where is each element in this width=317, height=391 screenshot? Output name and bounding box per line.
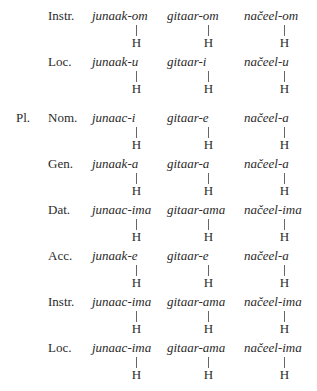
word-form: načeel-a [244,156,317,172]
form-cell: gitaar-i [167,54,247,70]
form-cell: junaak-a [92,156,172,172]
form-cell: junaak-om [92,8,172,24]
form-cell: načeel-ima [244,294,317,310]
word-form: gitaar-ama [167,294,247,310]
form-cell: gitaar-om [167,8,247,24]
tone-label: H [204,35,213,51]
word-form: gitaar-ama [167,202,247,218]
word-form: načeel-ima [244,202,317,218]
word-form: junaac-ima [92,340,172,356]
tone-label: H [280,367,289,383]
word-form: načeel-a [244,110,317,126]
tone-label: H [132,35,141,51]
word-form: junaac-i [92,110,172,126]
form-cell: junaak-e [92,248,172,264]
tone-label: H [132,137,141,153]
word-form: gitaar-ama [167,340,247,356]
tone-label: H [132,183,141,199]
tone-label: H [204,81,213,97]
word-form: načeel-ima [244,340,317,356]
case-label: Acc. [48,248,72,264]
tone-label: H [132,367,141,383]
word-form: gitaar-e [167,248,247,264]
tone-label: H [280,35,289,51]
tone-label: H [280,137,289,153]
word-form: junaak-om [92,8,172,24]
number-label: Pl. [16,110,30,126]
tone-label: H [204,367,213,383]
tone-label: H [280,229,289,245]
tone-label: H [204,321,213,337]
form-cell: gitaar-a [167,156,247,172]
word-form: načeel-u [244,54,317,70]
word-form: gitaar-e [167,110,247,126]
table-row: Gen.junaak-aHgitaar-aHnačeel-aH [0,156,317,202]
tone-label: H [280,275,289,291]
case-label: Dat. [48,202,70,218]
tone-label: H [132,229,141,245]
form-cell: gitaar-e [167,248,247,264]
case-label: Instr. [48,8,74,24]
word-form: junaak-a [92,156,172,172]
form-cell: gitaar-ama [167,202,247,218]
tone-label: H [280,321,289,337]
form-cell: načeel-u [244,54,317,70]
case-label: Gen. [48,156,73,172]
tone-label: H [204,183,213,199]
table-row: Instr.junaak-omHgitaar-omHnačeel-omH [0,8,317,54]
word-form: načeel-om [244,8,317,24]
form-cell: načeel-ima [244,340,317,356]
word-form: gitaar-a [167,156,247,172]
form-cell: gitaar-e [167,110,247,126]
case-label: Instr. [48,294,74,310]
form-cell: junaac-i [92,110,172,126]
table-row: Loc.junaak-uHgitaar-iHnačeel-uH [0,54,317,100]
word-form: junaak-u [92,54,172,70]
form-cell: junaac-ima [92,340,172,356]
table-row: Acc.junaak-eHgitaar-eHnačeel-aH [0,248,317,294]
tone-label: H [204,137,213,153]
word-form: junaak-e [92,248,172,264]
tone-label: H [204,275,213,291]
tone-label: H [132,81,141,97]
table-row: Instr.junaac-imaHgitaar-amaHnačeel-imaH [0,294,317,340]
case-label: Loc. [48,54,71,70]
tone-label: H [132,321,141,337]
word-form: junaac-ima [92,294,172,310]
form-cell: načeel-a [244,248,317,264]
form-cell: junaac-ima [92,202,172,218]
form-cell: gitaar-ama [167,340,247,356]
tone-label: H [280,183,289,199]
word-form: načeel-ima [244,294,317,310]
form-cell: gitaar-ama [167,294,247,310]
word-form: gitaar-om [167,8,247,24]
form-cell: načeel-a [244,110,317,126]
word-form: načeel-a [244,248,317,264]
form-cell: junaac-ima [92,294,172,310]
form-cell: načeel-a [244,156,317,172]
case-label: Nom. [48,110,77,126]
form-cell: načeel-om [244,8,317,24]
form-cell: junaak-u [92,54,172,70]
word-form: gitaar-i [167,54,247,70]
word-form: junaac-ima [92,202,172,218]
form-cell: načeel-ima [244,202,317,218]
tone-label: H [204,229,213,245]
table-row: Pl.Nom.junaac-iHgitaar-eHnačeel-aH [0,110,317,156]
tone-label: H [280,81,289,97]
table-row: Loc.junaac-imaHgitaar-amaHnačeel-imaH [0,340,317,386]
table-row: Dat.junaac-imaHgitaar-amaHnačeel-imaH [0,202,317,248]
tone-label: H [132,275,141,291]
case-label: Loc. [48,340,71,356]
